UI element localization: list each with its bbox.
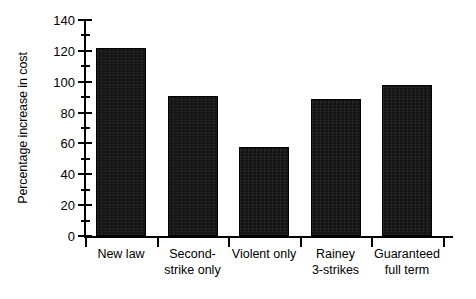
- y-tick-mark: [78, 50, 92, 52]
- y-tick-label: 100: [53, 75, 75, 88]
- y-tick-mark: [78, 112, 92, 114]
- y-tick-label: 80: [61, 106, 75, 119]
- bar-chart: Percentage increase in cost 020406080100…: [0, 0, 476, 299]
- bar: [382, 85, 432, 236]
- bar: [239, 147, 289, 236]
- y-tick-mark: [78, 19, 92, 21]
- y-minor-tick-50: [81, 158, 90, 160]
- y-minor-tick-10: [81, 220, 90, 222]
- bar: [168, 96, 218, 236]
- x-axis-line: [84, 236, 453, 238]
- y-tick-label: 20: [61, 199, 75, 212]
- y-tick-label: 140: [53, 14, 75, 27]
- bar: [311, 99, 361, 236]
- y-tick-mark: [78, 81, 92, 83]
- x-tick: [85, 236, 87, 247]
- x-tick: [371, 236, 373, 247]
- x-tick: [300, 236, 302, 247]
- y-tick-label: 0: [68, 230, 75, 243]
- y-tick-mark: [78, 142, 92, 144]
- x-tick: [228, 236, 230, 247]
- y-minor-tick-30: [81, 189, 90, 191]
- y-axis-title: Percentage increase in cost: [10, 20, 36, 236]
- y-tick-label: 120: [53, 44, 75, 57]
- y-tick-mark: [78, 173, 92, 175]
- x-tick: [443, 236, 445, 247]
- y-tick-label: 60: [61, 137, 75, 150]
- y-minor-tick-70: [81, 127, 90, 129]
- x-tick: [157, 236, 159, 247]
- y-minor-tick-130: [81, 34, 90, 36]
- category-label: Guaranteed full term: [357, 247, 457, 278]
- y-tick-label: 40: [61, 168, 75, 181]
- y-tick-mark: [78, 204, 92, 206]
- plot-area: 020406080100120140: [84, 20, 453, 236]
- y-minor-tick-90: [81, 96, 90, 98]
- bar: [96, 48, 146, 236]
- y-minor-tick-110: [81, 65, 90, 67]
